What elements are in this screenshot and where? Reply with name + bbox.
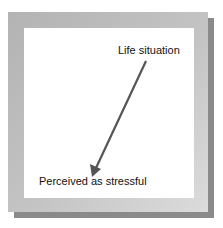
diagram-canvas: Life situation Perceived as stressful [24, 28, 194, 198]
arrow-icon [24, 28, 194, 198]
diagram-frame: Life situation Perceived as stressful [8, 12, 208, 212]
